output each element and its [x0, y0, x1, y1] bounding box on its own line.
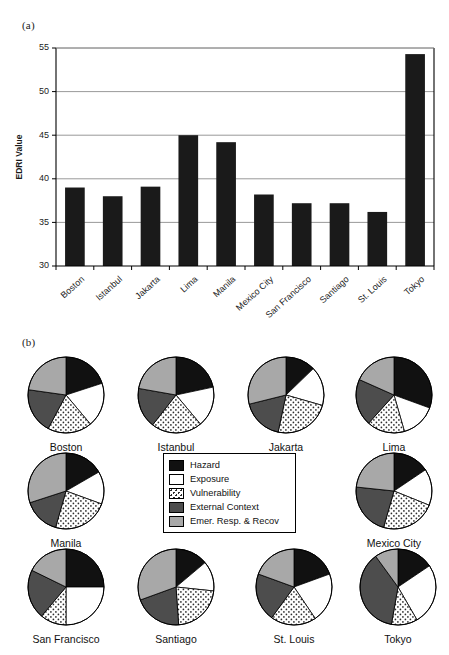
bar-chart-bar	[65, 188, 85, 266]
pie-chart-label: Tokyo	[350, 633, 446, 645]
bar-chart-category-label: Lima	[178, 274, 199, 294]
bar-chart-category-labels: BostonIstanbulJakartaLimaManilaMexico Ci…	[59, 274, 427, 320]
legend-label: Hazard	[190, 460, 220, 470]
bar-chart-bar	[254, 195, 274, 267]
bar-chart-y-tick-label: 55	[39, 42, 49, 52]
legend-swatch-exposure	[169, 474, 184, 485]
bar-chart-category-label: Santiago	[318, 274, 351, 305]
pie-chart-svg	[132, 351, 220, 439]
pie-chart-cell: Tokyo	[350, 543, 446, 645]
pie-chart-svg	[22, 543, 110, 631]
pie-chart-label: Santiago	[128, 633, 224, 645]
legend-row: Hazard	[169, 458, 290, 472]
bar-chart-bar	[405, 54, 425, 266]
pie-chart-cell: Lima	[346, 351, 442, 453]
pie-chart-label: Istanbul	[128, 441, 224, 453]
pie-chart-cell: Manila	[18, 447, 114, 549]
bar-chart-bar	[330, 203, 350, 266]
pie-chart-cell: Santiago	[128, 543, 224, 645]
bar-chart-category-label: Manila	[211, 274, 237, 299]
bar-chart-y-tick-label: 50	[39, 86, 49, 96]
legend-label: Emer. Resp. & Recov	[190, 516, 279, 526]
legend-row: Emer. Resp. & Recov	[169, 514, 290, 528]
bar-chart-y-tick-label: 35	[39, 217, 49, 227]
pie-chart-label: Jakarta	[238, 441, 334, 453]
bar-chart-bar	[292, 203, 312, 266]
bar-chart-category-label: Tokyo	[402, 274, 426, 297]
pie-chart-svg	[350, 351, 438, 439]
bar-chart-bar	[103, 196, 123, 266]
bar-chart-svg: 303540455055 BostonIstanbulJakartaLimaMa…	[0, 30, 449, 325]
pie-chart-cell: Boston	[18, 351, 114, 453]
bar-chart-category-label: Istanbul	[94, 274, 124, 303]
pie-chart-cell: Istanbul	[128, 351, 224, 453]
pie-slice-vulnerability	[176, 587, 214, 625]
pie-chart-label: San Francisco	[18, 633, 114, 645]
pie-chart-cell: St. Louis	[246, 543, 342, 645]
bar-chart-y-axis-title: EDRI Value	[14, 134, 24, 179]
pie-chart-svg	[354, 543, 442, 631]
bar-chart-x-axis-ticks	[56, 266, 434, 270]
bar-chart-y-axis-ticks: 303540455055	[39, 42, 56, 270]
legend-label: Vulnerability	[190, 488, 240, 498]
bar-chart-y-tick-label: 30	[39, 260, 49, 270]
bar-chart-bars	[65, 54, 425, 266]
legend-label: Exposure	[190, 474, 229, 484]
pie-chart-cell: Mexico City	[346, 447, 442, 549]
pie-chart-svg	[22, 447, 110, 535]
bar-chart-y-tick-label: 40	[39, 173, 49, 183]
bar-chart-category-label: Jakarta	[133, 274, 162, 301]
bar-chart-category-label: Boston	[59, 274, 87, 300]
legend-swatch-emergency-response	[169, 516, 184, 527]
legend-row: Exposure	[169, 472, 290, 486]
bar-chart-gridlines	[56, 48, 434, 222]
bar-chart-category-label: St. Louis	[356, 274, 389, 305]
pie-chart-cell: San Francisco	[18, 543, 114, 645]
pie-chart-legend: HazardExposureVulnerabilityExternal Cont…	[163, 453, 296, 533]
pie-chart-svg	[22, 351, 110, 439]
pie-slice-exposure	[66, 587, 104, 625]
pie-chart-svg	[132, 543, 220, 631]
pie-chart-svg	[242, 351, 330, 439]
pie-slice-emergency-response	[356, 453, 394, 491]
pie-chart-svg	[250, 543, 338, 631]
bar-chart-bar	[178, 135, 198, 266]
bar-chart-bar	[367, 212, 387, 266]
pie-chart-svg	[350, 447, 438, 535]
legend-swatch-external-context	[169, 502, 184, 513]
pie-slice-hazard	[66, 549, 104, 587]
bar-chart-bar	[216, 142, 236, 266]
bar-chart-panel: 303540455055 BostonIstanbulJakartaLimaMa…	[0, 30, 449, 325]
pie-slice-emergency-response	[28, 357, 66, 395]
pie-chart-label: St. Louis	[246, 633, 342, 645]
pie-chart-cell: Jakarta	[238, 351, 334, 453]
legend-swatch-hazard	[169, 460, 184, 471]
legend-label: External Context	[190, 502, 259, 512]
bar-chart-bar	[141, 187, 161, 266]
legend-swatch-vulnerability	[169, 488, 184, 499]
legend-row: External Context	[169, 500, 290, 514]
pie-slice-emergency-response	[139, 357, 176, 395]
bar-chart-y-tick-label: 45	[39, 130, 49, 140]
legend-row: Vulnerability	[169, 486, 290, 500]
